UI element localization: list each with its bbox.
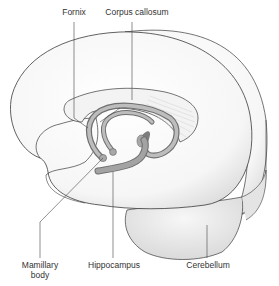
label-mamillary-line2: body	[18, 270, 62, 280]
label-mamillary-body: Mamillary body	[18, 260, 62, 280]
label-corpus-callosum: Corpus callosum	[102, 7, 172, 17]
brain-illustration	[0, 0, 279, 286]
limbic-system-diagram: Fornix Corpus callosum Mamillary body Hi…	[0, 0, 279, 286]
label-hippocampus: Hippocampus	[86, 260, 142, 270]
label-cerebellum: Cerebellum	[183, 260, 233, 270]
label-mamillary-line1: Mamillary	[18, 260, 62, 270]
label-fornix: Fornix	[61, 7, 87, 17]
